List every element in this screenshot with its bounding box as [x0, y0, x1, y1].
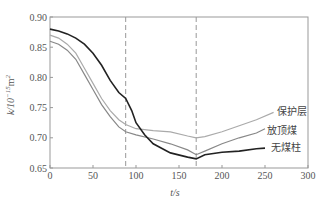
- x-axis-label: t/s: [170, 187, 180, 198]
- y-tick-label: 0.65: [30, 163, 48, 174]
- x-tick-label: 150: [172, 170, 187, 181]
- y-axis-label: k/10−15m2: [4, 74, 16, 115]
- y-tick-label: 0.80: [30, 72, 48, 83]
- x-tick-label: 250: [258, 170, 273, 181]
- series-label: 无煤柱: [271, 141, 301, 153]
- x-tick-label: 100: [129, 170, 144, 181]
- series-line: [50, 35, 274, 138]
- line-chart: 0501001502002503000.650.700.750.800.850.…: [0, 0, 325, 201]
- y-tick-label: 0.70: [30, 132, 48, 143]
- x-tick-label: 300: [301, 170, 316, 181]
- plot-area: 0501001502002503000.650.700.750.800.850.…: [30, 12, 316, 182]
- x-tick-label: 200: [215, 170, 230, 181]
- series-label: 保护层: [277, 105, 307, 117]
- series-label: 放顶煤: [267, 124, 297, 136]
- plot-frame: [50, 17, 308, 168]
- x-tick-label: 50: [88, 170, 98, 181]
- y-tick-label: 0.75: [30, 102, 48, 113]
- x-tick-label: 0: [48, 170, 53, 181]
- series-line: [50, 41, 265, 155]
- y-tick-label: 0.90: [30, 12, 48, 23]
- y-tick-label: 0.85: [30, 42, 48, 53]
